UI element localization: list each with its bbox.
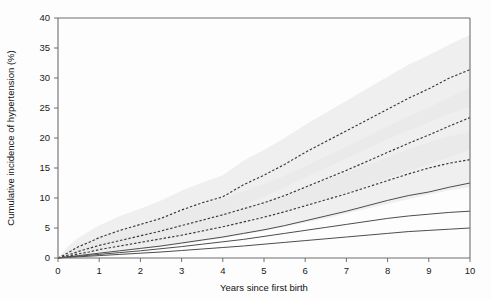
x-tick-label-7: 7 — [344, 265, 349, 276]
y-tick-label-5: 5 — [45, 222, 50, 233]
x-tick-label-2: 2 — [138, 265, 143, 276]
x-tick-label-1: 1 — [97, 265, 102, 276]
x-tick-label-9: 9 — [426, 265, 431, 276]
cumulative-incidence-line-chart: 0510152025303540012345678910Years since … — [0, 0, 491, 299]
y-tick-label-40: 40 — [39, 12, 50, 23]
x-tick-label-5: 5 — [261, 265, 266, 276]
y-tick-label-15: 15 — [39, 162, 50, 173]
x-tick-label-6: 6 — [303, 265, 308, 276]
y-tick-label-10: 10 — [39, 192, 50, 203]
y-tick-label-0: 0 — [45, 252, 50, 263]
x-tick-label-8: 8 — [385, 265, 390, 276]
x-axis-title: Years since first birth — [220, 282, 308, 293]
y-axis-title: Cumulative incidence of hypertension (%) — [5, 50, 16, 225]
x-tick-label-3: 3 — [179, 265, 184, 276]
x-tick-label-10: 10 — [465, 265, 476, 276]
y-tick-label-35: 35 — [39, 42, 50, 53]
chart-figure: 0510152025303540012345678910Years since … — [0, 0, 491, 299]
y-tick-label-25: 25 — [39, 102, 50, 113]
confidence-band-group — [58, 35, 470, 258]
y-tick-label-30: 30 — [39, 72, 50, 83]
x-tick-label-0: 0 — [55, 265, 60, 276]
x-tick-label-4: 4 — [220, 265, 225, 276]
y-tick-label-20: 20 — [39, 132, 50, 143]
